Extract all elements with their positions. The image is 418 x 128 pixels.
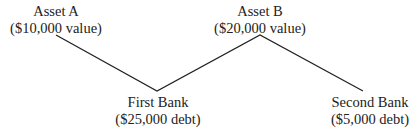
node-second-bank-name: Second Bank <box>322 94 418 111</box>
node-second-bank: Second Bank ($5,000 debt) <box>322 94 418 128</box>
node-first-bank-name: First Bank <box>110 94 206 111</box>
edge-path <box>56 35 363 91</box>
node-first-bank-detail: ($25,000 debt) <box>110 111 206 128</box>
node-asset-b-detail: ($20,000 value) <box>212 20 308 37</box>
node-asset-a-detail: ($10,000 value) <box>8 20 104 37</box>
node-second-bank-detail: ($5,000 debt) <box>322 111 418 128</box>
node-asset-a: Asset A ($10,000 value) <box>8 3 104 37</box>
node-first-bank: First Bank ($25,000 debt) <box>110 94 206 128</box>
node-asset-b: Asset B ($20,000 value) <box>212 3 308 37</box>
node-asset-a-name: Asset A <box>8 3 104 20</box>
node-asset-b-name: Asset B <box>212 3 308 20</box>
